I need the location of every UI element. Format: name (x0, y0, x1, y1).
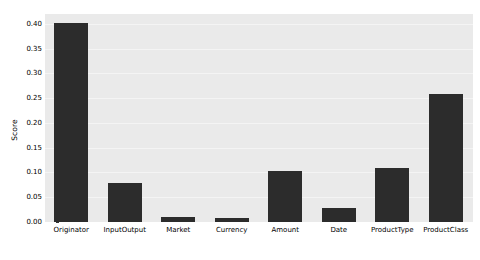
bar-chart-figure: Score 0.000.050.100.150.200.250.300.350.… (0, 0, 480, 260)
x-tick-label: ProductClass (423, 224, 468, 236)
y-tick-label: 0.15 (14, 143, 42, 153)
plot-area (45, 14, 473, 222)
bar (429, 94, 463, 222)
x-tick-label: Currency (216, 224, 248, 236)
y-tick-label: 0.05 (14, 192, 42, 202)
bar (268, 171, 302, 223)
bar (161, 217, 195, 222)
y-axis-tick-labels: 0.000.050.100.150.200.250.300.350.40 (14, 14, 42, 222)
y-tick-label: 0.10 (14, 167, 42, 177)
x-tick-label: InputOutput (104, 224, 146, 236)
x-axis-tick-labels: OriginatorInputOutputMarketCurrencyAmoun… (45, 224, 473, 238)
bar (375, 168, 409, 222)
bar-series (45, 14, 473, 222)
x-tick-label: Originator (54, 224, 89, 236)
bar (54, 23, 88, 222)
y-tick-label: 0.20 (14, 118, 42, 128)
y-tick-label: 0.25 (14, 93, 42, 103)
bar (108, 183, 142, 222)
x-tick-label: Amount (271, 224, 299, 236)
y-tick-label: 0.40 (14, 19, 42, 29)
y-tick-label: 0.00 (14, 217, 42, 227)
x-tick-label: ProductType (371, 224, 414, 236)
x-tick-label: Date (330, 224, 347, 236)
y-tick-label: 0.30 (14, 68, 42, 78)
x-tick-label: Market (166, 224, 190, 236)
y-tick-label: 0.35 (14, 44, 42, 54)
bar (322, 208, 356, 222)
bar (215, 218, 249, 222)
